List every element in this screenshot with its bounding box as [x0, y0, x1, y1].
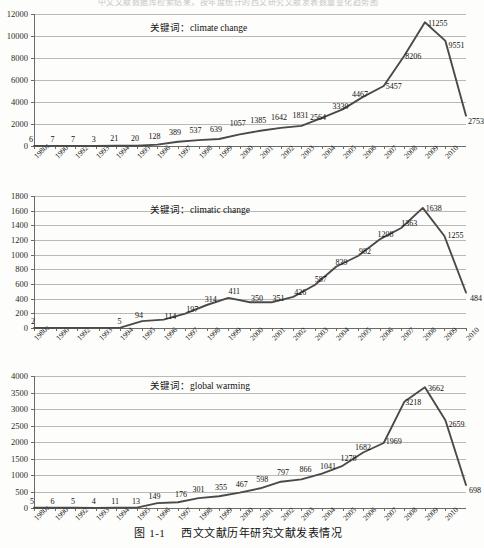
data-point-label: 389 [169, 129, 181, 137]
plot-area-global-warming: 050010001500200025003000350040001980s199… [0, 368, 476, 510]
data-point-label: 2659 [448, 421, 464, 429]
data-point-label: 698 [469, 487, 481, 495]
data-point-label: 839 [335, 259, 347, 267]
data-point-label: 11 [111, 498, 119, 506]
data-point-label: 197 [186, 306, 198, 314]
data-point-label: 639 [210, 126, 222, 134]
data-point-label: 1255 [447, 232, 463, 240]
data-point-label: 301 [193, 486, 205, 494]
data-point-label: 128 [148, 133, 160, 141]
data-point-label: 1682 [355, 444, 371, 452]
data-point-label: 797 [277, 469, 289, 477]
plot-area-climate-change: 0200040006000800010000120001980s19901992… [0, 6, 476, 148]
data-point-label: 8206 [405, 53, 421, 61]
data-point-label: 355 [215, 484, 227, 492]
figure-caption: 图 1-1 西文文献历年研究文献发表情况 [0, 524, 476, 540]
data-point-label: 149 [148, 493, 160, 501]
data-point-label: 598 [256, 476, 268, 484]
data-point-label: 20 [131, 135, 139, 143]
data-point-label: 467 [236, 481, 248, 489]
data-point-label: 5457 [386, 83, 402, 91]
data-point-label: 5 [30, 498, 34, 506]
data-point-label: 4467 [352, 91, 368, 99]
data-point-label: 1385 [250, 117, 266, 125]
data-point-label: 11255 [428, 20, 448, 28]
data-point-label: 1363 [401, 220, 417, 228]
caption-number: 1-1 [149, 527, 165, 539]
data-point-label: 484 [470, 295, 482, 303]
data-point-label: 426 [294, 289, 306, 297]
chart-keyword-title: 关键词：climate change [150, 20, 247, 34]
data-point-label: 6 [51, 498, 55, 506]
data-point-label: 866 [299, 466, 311, 474]
caption-text: 西文文献历年研究文献发表情况 [181, 527, 342, 540]
plot-area-climatic-change: 0200400600800100012001400160018001980s19… [0, 188, 476, 330]
chart-climate-change: 0200040006000800010000120001980s19901992… [0, 6, 476, 148]
data-point-label: 176 [175, 491, 187, 499]
data-point-label: 9551 [448, 42, 464, 50]
data-point-label: 5 [117, 318, 121, 326]
data-point-label: 6 [29, 136, 33, 144]
data-point-label: 1278 [341, 455, 357, 463]
data-point-label: 3662 [428, 385, 444, 393]
data-point-label: 3 [92, 136, 96, 144]
data-point-label: 350 [251, 295, 263, 303]
chart-global-warming: 050010001500200025003000350040001980s199… [0, 368, 476, 510]
data-point-label: 1831 [292, 112, 308, 120]
data-point-label: 13 [132, 498, 140, 506]
chart-keyword-title: 关键词：climatic change [150, 202, 250, 216]
data-point-label: 314 [205, 296, 217, 304]
caption-prefix: 图 [134, 527, 146, 540]
data-point-label: 1057 [230, 120, 246, 128]
data-point-label: 1041 [320, 463, 336, 471]
data-point-label: 21 [110, 135, 118, 143]
data-point-label: 3218 [405, 399, 421, 407]
data-point-label: 7 [71, 136, 75, 144]
data-point-label: 982 [359, 248, 371, 256]
data-point-label: 587 [315, 276, 327, 284]
data-point-label: 351 [273, 295, 285, 303]
chart-climatic-change: 0200400600800100012001400160018001980s19… [0, 188, 476, 330]
data-point-label: 2 [31, 318, 35, 326]
data-point-label: 1208 [378, 231, 394, 239]
data-point-label: 1642 [271, 114, 287, 122]
data-point-label: 537 [190, 127, 202, 135]
data-point-label: 1638 [426, 205, 442, 213]
data-point-label: 1969 [386, 438, 402, 446]
data-point-label: 114 [165, 313, 177, 321]
data-point-label: 5 [71, 498, 75, 506]
chart-keyword-title: 关键词：global warming [150, 378, 250, 392]
data-point-label: 4 [92, 498, 96, 506]
data-point-label: 94 [135, 312, 143, 320]
data-point-label: 2753 [468, 118, 484, 126]
data-point-label: 7 [51, 136, 55, 144]
data-point-label: 411 [228, 288, 240, 296]
data-point-label: 2564 [310, 114, 326, 122]
data-point-label: 3330 [333, 103, 349, 111]
